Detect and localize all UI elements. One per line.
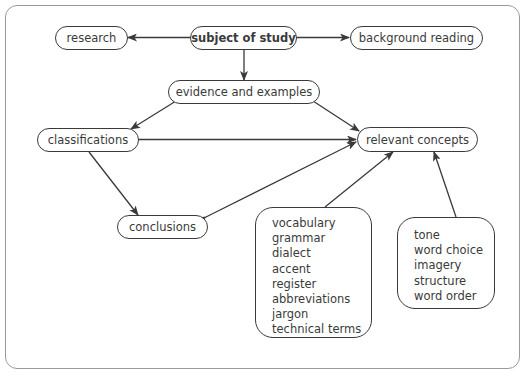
node-subject-of-study: subject of study — [190, 26, 297, 50]
node-background-reading: background reading — [350, 26, 483, 50]
node-relevant-concepts: relevant concepts — [357, 127, 478, 152]
arrow-classifications-to-conclusions — [89, 152, 138, 215]
list-item: word order — [414, 289, 494, 304]
arrow-conclusions-concepts — [206, 142, 356, 217]
arrow-style-to-concepts — [434, 152, 456, 217]
arrow-evidence-to-classifications — [131, 101, 176, 129]
list-item: vocabulary — [272, 216, 371, 231]
list-item: structure — [414, 274, 494, 289]
node-conclusions-label: conclusions — [129, 220, 196, 234]
node-background-label: background reading — [359, 31, 474, 45]
node-evidence-and-examples: evidence and examples — [168, 80, 320, 104]
list-item: dialect — [272, 246, 371, 261]
list-item: tone — [414, 228, 494, 243]
node-research: research — [55, 26, 128, 50]
list-item: word choice — [414, 243, 494, 258]
list-item: register — [272, 277, 371, 292]
list-item: imagery — [414, 258, 494, 273]
list-item: accent — [272, 262, 371, 277]
arrow-evidence-to-concepts — [313, 101, 359, 131]
list-item: technical terms — [272, 322, 371, 337]
node-classifications: classifications — [37, 128, 139, 152]
language-features-box: vocabulary grammar dialect accent regist… — [255, 207, 372, 338]
node-research-label: research — [67, 31, 117, 45]
node-classifications-label: classifications — [48, 133, 128, 147]
list-item: jargon — [272, 307, 371, 322]
arrow-language-to-concepts — [325, 152, 393, 207]
node-subject-label: subject of study — [191, 31, 296, 45]
list-item: abbreviations — [272, 292, 371, 307]
node-conclusions: conclusions — [117, 215, 208, 239]
node-evidence-label: evidence and examples — [176, 85, 313, 99]
node-concepts-label: relevant concepts — [366, 133, 469, 147]
list-item: grammar — [272, 231, 371, 246]
style-features-box: tone word choice imagery structure word … — [397, 217, 495, 309]
